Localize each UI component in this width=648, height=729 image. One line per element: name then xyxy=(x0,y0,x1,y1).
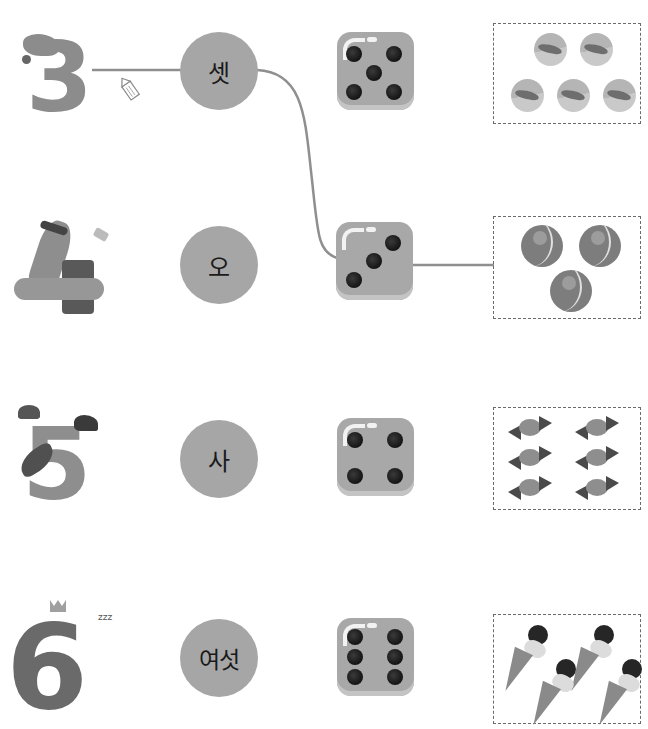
candy-icon xyxy=(508,446,552,470)
parrot-five-character: 5 xyxy=(14,405,99,509)
parrot-crest-icon xyxy=(18,405,40,419)
die-pip xyxy=(347,468,363,484)
word-label: 셋 xyxy=(208,54,230,89)
snake-six-character: 6 zzz xyxy=(6,600,116,706)
die-shine xyxy=(342,228,364,250)
ice-cream-box[interactable] xyxy=(493,614,641,724)
candy-icon xyxy=(575,416,619,440)
die-pip xyxy=(347,629,363,645)
die-pip xyxy=(386,46,402,62)
mole-hammer-character: 4 xyxy=(12,212,107,314)
numeral-six: 6 xyxy=(6,608,88,726)
die-pip xyxy=(347,432,363,448)
marbles-box[interactable] xyxy=(493,23,641,124)
die-six[interactable] xyxy=(337,618,414,696)
die-pip xyxy=(347,649,363,665)
die-pip xyxy=(346,46,362,62)
die-pip xyxy=(387,629,403,645)
word-circle-sa[interactable]: 사 xyxy=(180,420,258,498)
die-four[interactable] xyxy=(337,418,414,496)
die-pip xyxy=(387,649,403,665)
tennis-ball-icon xyxy=(521,225,563,267)
tennis-balls-box[interactable] xyxy=(493,216,641,319)
word-circle-o[interactable]: 오 xyxy=(180,226,258,304)
curve-word-set-to-die-three xyxy=(257,70,337,258)
ice-cream-cone-icon xyxy=(542,659,582,729)
die-pip xyxy=(387,468,403,484)
pencil-icon xyxy=(118,75,139,100)
parrot-beak-icon xyxy=(74,415,98,431)
die-pip xyxy=(385,235,401,251)
marble-icon xyxy=(511,79,544,112)
die-shine xyxy=(367,37,377,42)
word-label: 오 xyxy=(208,248,230,283)
die-shine xyxy=(367,623,377,628)
die-pip xyxy=(387,669,403,685)
die-three[interactable] xyxy=(336,222,413,300)
sleep-zzz-icon: zzz xyxy=(98,612,112,622)
die-pip xyxy=(346,272,362,288)
candy-icon xyxy=(508,416,552,440)
marble-icon xyxy=(557,79,590,112)
candy-icon xyxy=(575,476,619,500)
candy-icon xyxy=(575,446,619,470)
donkey-nose-icon xyxy=(22,55,31,64)
tennis-ball-icon xyxy=(579,225,621,267)
ice-cream-cone-icon xyxy=(608,659,648,729)
tennis-ball-icon xyxy=(550,270,592,312)
die-pip xyxy=(386,84,402,100)
mole-arms xyxy=(14,278,104,300)
word-circle-yeoseot[interactable]: 여섯 xyxy=(180,619,258,697)
word-label: 여섯 xyxy=(199,641,239,675)
die-pip xyxy=(387,432,403,448)
hammer-icon xyxy=(93,227,110,242)
die-pip xyxy=(366,253,382,269)
die-pip xyxy=(347,669,363,685)
candies-box[interactable] xyxy=(493,407,641,510)
die-shine xyxy=(367,423,377,428)
die-shine xyxy=(366,227,376,232)
marble-icon xyxy=(603,79,636,112)
candy-icon xyxy=(508,476,552,500)
word-label: 사 xyxy=(208,442,230,477)
die-pip xyxy=(366,65,382,81)
word-circle-set[interactable]: 셋 xyxy=(180,32,258,110)
donkey-three-character: 3 xyxy=(18,22,96,122)
marble-icon xyxy=(534,33,567,66)
die-five[interactable] xyxy=(337,32,414,110)
die-pip xyxy=(346,84,362,100)
marble-icon xyxy=(580,33,613,66)
